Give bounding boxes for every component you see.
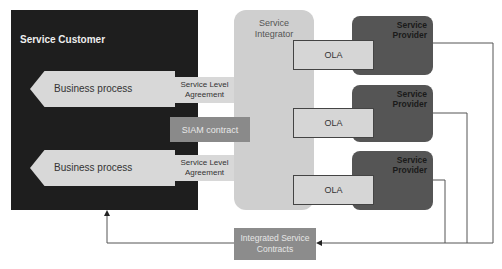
- ola-box-3: OLA: [293, 175, 374, 205]
- provider-title: ServiceProvider: [393, 155, 428, 175]
- integrated-service-contracts-box: Integrated ServiceContracts: [234, 228, 316, 260]
- service-customer-title: Service Customer: [20, 34, 105, 45]
- siam-contract-box: SIAM contract: [170, 117, 250, 142]
- ola-box-2: OLA: [293, 108, 374, 138]
- provider-title: ServiceProvider: [393, 20, 428, 40]
- service-integrator-title: Service Integrator: [234, 18, 314, 40]
- provider-title: ServiceProvider: [393, 89, 428, 109]
- business-process-arrow-2: Business process: [30, 150, 175, 186]
- business-process-arrow-1: Business process: [30, 71, 175, 107]
- sla-label-2: Service LevelAgreement: [175, 155, 234, 181]
- sla-label-1: Service LevelAgreement: [175, 77, 234, 103]
- ola-box-1: OLA: [293, 40, 374, 70]
